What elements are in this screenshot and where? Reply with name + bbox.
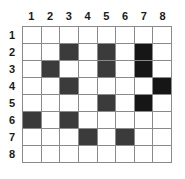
grid-cell-r8-c8[interactable]	[153, 146, 172, 163]
grid-cell-r6-c3[interactable]	[60, 112, 79, 129]
grid-row	[23, 146, 172, 163]
grid-cell-r2-c1[interactable]	[23, 44, 42, 61]
row-header-7: 7	[4, 129, 20, 146]
column-header-6: 6	[116, 8, 135, 24]
column-header-8: 8	[153, 8, 172, 24]
grid-cell-r1-c2[interactable]	[41, 27, 60, 44]
grid-cell-r7-c1[interactable]	[23, 129, 42, 146]
grid-cell-r8-c3[interactable]	[60, 146, 79, 163]
grid-cell-r1-c3[interactable]	[60, 27, 79, 44]
grid-cell-r1-c1[interactable]	[23, 27, 42, 44]
column-header-5: 5	[97, 8, 116, 24]
grid-cell-r7-c4[interactable]	[78, 129, 97, 146]
grid-cell-r6-c6[interactable]	[116, 112, 135, 129]
grid-row	[23, 95, 172, 112]
grid-row	[23, 78, 172, 95]
grid-row	[23, 27, 172, 44]
grid-cell-r3-c5[interactable]	[97, 61, 116, 78]
grid-row	[23, 61, 172, 78]
grid-cell-r4-c7[interactable]	[134, 78, 153, 95]
grid-cell-r4-c2[interactable]	[41, 78, 60, 95]
grid-cell-r2-c4[interactable]	[78, 44, 97, 61]
grid-cell-r7-c6[interactable]	[116, 129, 135, 146]
grid-cell-r7-c7[interactable]	[134, 129, 153, 146]
grid-cell-r1-c4[interactable]	[78, 27, 97, 44]
grid-cell-r7-c5[interactable]	[97, 129, 116, 146]
grid-cell-r4-c4[interactable]	[78, 78, 97, 95]
grid-cell-r2-c7[interactable]	[134, 44, 153, 61]
row-header-6: 6	[4, 112, 20, 129]
grid-cell-r6-c8[interactable]	[153, 112, 172, 129]
grid-cell-r5-c8[interactable]	[153, 95, 172, 112]
grid-cell-r3-c7[interactable]	[134, 61, 153, 78]
column-header-3: 3	[60, 8, 79, 24]
grid-cell-r5-c3[interactable]	[60, 95, 79, 112]
grid-cell-r8-c7[interactable]	[134, 146, 153, 163]
grid-cell-r7-c8[interactable]	[153, 129, 172, 146]
grid-cell-r6-c5[interactable]	[97, 112, 116, 129]
row-header-5: 5	[4, 95, 20, 112]
grid-cell-r5-c5[interactable]	[97, 95, 116, 112]
column-header-1: 1	[22, 8, 41, 24]
grid-cell-r2-c6[interactable]	[116, 44, 135, 61]
grid-cell-r2-c3[interactable]	[60, 44, 79, 61]
grid-cell-r5-c6[interactable]	[116, 95, 135, 112]
grid-cell-r1-c5[interactable]	[97, 27, 116, 44]
grid-cell-r4-c3[interactable]	[60, 78, 79, 95]
grid-cell-r4-c5[interactable]	[97, 78, 116, 95]
grid-cell-r6-c1[interactable]	[23, 112, 42, 129]
grid-cell-r4-c6[interactable]	[116, 78, 135, 95]
grid-cell-r1-c7[interactable]	[134, 27, 153, 44]
row-header-4: 4	[4, 77, 20, 94]
row-header-3: 3	[4, 60, 20, 77]
grid-cell-r2-c2[interactable]	[41, 44, 60, 61]
grid-cell-r4-c1[interactable]	[23, 78, 42, 95]
grid-row	[23, 44, 172, 61]
grid-cell-r3-c6[interactable]	[116, 61, 135, 78]
row-header-8: 8	[4, 146, 20, 163]
grid-cell-r5-c1[interactable]	[23, 95, 42, 112]
grid-cell-r3-c3[interactable]	[60, 61, 79, 78]
column-header-7: 7	[135, 8, 154, 24]
grid-cell-r6-c2[interactable]	[41, 112, 60, 129]
row-header-1: 1	[4, 26, 20, 43]
grid-cell-r3-c2[interactable]	[41, 61, 60, 78]
grid-cell-r6-c4[interactable]	[78, 112, 97, 129]
grid-cell-r7-c2[interactable]	[41, 129, 60, 146]
grid-cell-r8-c4[interactable]	[78, 146, 97, 163]
column-header-row: 1 2 3 4 5 6 7 8	[22, 8, 172, 24]
grid-cell-r4-c8[interactable]	[153, 78, 172, 95]
grid-cell-r5-c7[interactable]	[134, 95, 153, 112]
grid-cell-r8-c5[interactable]	[97, 146, 116, 163]
grid-cell-r7-c3[interactable]	[60, 129, 79, 146]
grid-cell-r3-c1[interactable]	[23, 61, 42, 78]
row-header-column: 1 2 3 4 5 6 7 8	[4, 26, 20, 163]
grid-cells-table[interactable]	[22, 26, 172, 163]
grid-cell-r8-c1[interactable]	[23, 146, 42, 163]
grid-cell-r1-c8[interactable]	[153, 27, 172, 44]
grid-figure: 1 2 3 4 5 6 7 8 1 2 3 4 5 6 7 8	[0, 0, 185, 179]
column-header-2: 2	[41, 8, 60, 24]
grid-cell-r8-c6[interactable]	[116, 146, 135, 163]
grid-cell-r5-c2[interactable]	[41, 95, 60, 112]
grid-row	[23, 129, 172, 146]
grid-cell-r2-c8[interactable]	[153, 44, 172, 61]
grid-cell-r1-c6[interactable]	[116, 27, 135, 44]
grid-cell-r3-c4[interactable]	[78, 61, 97, 78]
grid-cell-r3-c8[interactable]	[153, 61, 172, 78]
grid-cell-r8-c2[interactable]	[41, 146, 60, 163]
grid-cell-r5-c4[interactable]	[78, 95, 97, 112]
column-header-4: 4	[78, 8, 97, 24]
grid-cell-r6-c7[interactable]	[134, 112, 153, 129]
grid-row	[23, 112, 172, 129]
grid-cell-r2-c5[interactable]	[97, 44, 116, 61]
row-header-2: 2	[4, 43, 20, 60]
